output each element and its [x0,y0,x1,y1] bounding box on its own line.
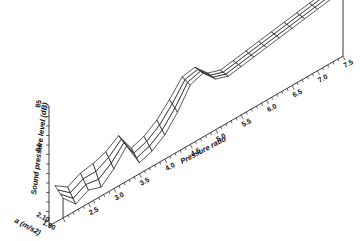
x-tick-mark [323,68,324,71]
x-tick-mark [292,85,294,89]
x-tick-mark [134,177,135,180]
x-tick-label: 3.0 [113,191,125,202]
y-axis-title: a (m/s2) [13,216,43,237]
x-tick-mark [94,200,95,203]
x-tick-mark [267,100,269,104]
x-tick-mark [139,174,141,178]
x-tick-mark [129,180,130,183]
x-tick-mark [68,215,69,218]
x-tick-label: 3.5 [139,176,151,187]
x-tick-mark [78,209,79,212]
x-axis-ticks [63,56,345,222]
x-tick-mark [114,189,116,193]
x-tick-mark [160,162,161,165]
surface-plot: 85 84 Sound pressure level (dB) 2.10 1.9… [0,0,360,241]
x-tick-label: 6.5 [291,88,303,99]
x-tick-mark [297,83,298,86]
x-tick-mark [262,103,263,106]
x-tick-mark [333,62,334,65]
x-tick-label: 7.5 [342,58,354,69]
x-tick-mark [221,127,222,129]
x-tick-mark [318,71,320,75]
x-tick-mark [180,150,181,153]
x-tick-mark [277,94,278,97]
x-tick-mark [165,159,167,163]
z-axis-title: Sound pressure level (dB) [29,101,49,195]
x-tick-mark [272,97,273,100]
x-tick-mark [236,118,237,121]
x-tick-label: 7.0 [317,73,329,84]
x-tick-mark [343,56,345,60]
x-tick-mark [231,121,232,124]
x-tick-mark [246,112,247,115]
x-tick-mark [155,165,156,168]
x-tick-mark [251,109,252,112]
x-tick-mark [226,124,227,127]
x-tick-mark [328,65,329,68]
x-axis-line [63,56,343,218]
x-tick-mark [312,74,313,77]
x-tick-mark [190,144,192,148]
x-tick-mark [307,77,308,80]
x-tick-mark [206,136,207,139]
x-tick-mark [302,80,303,83]
x-tick-mark [287,88,288,91]
x-tick-mark [256,106,257,109]
x-tick-label: 5.5 [240,117,252,128]
x-tick-mark [338,59,339,62]
x-tick-label: 6.0 [266,102,278,113]
x-tick-mark [241,115,243,119]
x-tick-mark [124,183,125,186]
x-tick-label: 2.5 [88,205,100,216]
x-tick-mark [104,194,105,197]
x-tick-mark [175,153,176,156]
x-tick-mark [99,197,100,200]
x-tick-mark [211,133,212,136]
x-tick-mark [63,218,65,222]
x-tick-mark [144,171,145,174]
y-tick-1.90: 1.90 [42,219,57,232]
x-tick-mark [109,191,110,194]
x-tick-mark [83,206,84,209]
x-tick-mark [88,203,90,207]
x-tick-mark [195,141,196,144]
x-tick-label: 4.0 [164,161,176,172]
x-tick-mark [282,91,283,94]
x-tick-mark [216,130,218,134]
x-tick-mark [119,186,120,189]
x-tick-mark [150,168,151,171]
x-tick-mark [170,156,171,159]
x-tick-mark [200,138,201,141]
x-tick-mark [73,212,74,215]
x-tick-mark [185,147,186,150]
surface-mesh [55,0,343,218]
